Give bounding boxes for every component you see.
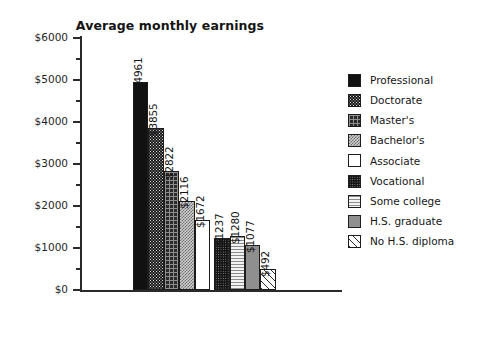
legend-swatch-icon bbox=[348, 195, 361, 208]
legend-swatch-icon bbox=[348, 134, 361, 147]
legend-item-label: Some college bbox=[370, 196, 441, 207]
bar-some-college bbox=[230, 236, 245, 290]
bar-master-s bbox=[164, 171, 179, 290]
legend-item-label: Associate bbox=[370, 156, 420, 167]
legend-swatch-icon bbox=[348, 114, 361, 127]
legend-item-label: Vocational bbox=[370, 176, 424, 187]
bar-doctorate bbox=[148, 128, 163, 290]
legend-swatch-icon bbox=[348, 175, 361, 188]
bar-value-label: $4961 bbox=[132, 57, 144, 89]
bar-value-label: $2116 bbox=[178, 177, 190, 209]
legend-swatch-icon bbox=[348, 74, 361, 87]
bar-value-label: $1077 bbox=[244, 220, 256, 252]
legend-item-no-h-s-diploma[interactable]: No H.S. diploma bbox=[348, 232, 478, 252]
bar-value-label: $3855 bbox=[147, 104, 159, 136]
bar-value-label: $2822 bbox=[163, 147, 175, 179]
legend-item-label: No H.S. diploma bbox=[370, 236, 454, 247]
legend-swatch-icon bbox=[348, 154, 361, 167]
legend-swatch-icon bbox=[348, 215, 361, 228]
bar-bachelor-s bbox=[179, 201, 194, 290]
legend-item-h-s-graduate[interactable]: H.S. graduate bbox=[348, 211, 478, 231]
legend-item-label: Bachelor's bbox=[370, 135, 425, 146]
bar-value-label: $1672 bbox=[194, 195, 206, 227]
bar-associate bbox=[195, 220, 210, 290]
legend-item-label: Doctorate bbox=[370, 95, 422, 106]
bar-value-label: $1237 bbox=[213, 214, 225, 246]
legend-item-some-college[interactable]: Some college bbox=[348, 191, 478, 211]
chart-legend: ProfessionalDoctorateMaster'sBachelor'sA… bbox=[348, 70, 478, 252]
bar-value-label: $1280 bbox=[229, 212, 241, 244]
legend-swatch-icon bbox=[348, 94, 361, 107]
legend-item-vocational[interactable]: Vocational bbox=[348, 171, 478, 191]
legend-item-professional[interactable]: Professional bbox=[348, 70, 478, 90]
legend-item-bachelor-s[interactable]: Bachelor's bbox=[348, 131, 478, 151]
legend-item-label: H.S. graduate bbox=[370, 216, 442, 227]
legend-swatch-icon bbox=[348, 235, 361, 248]
legend-item-master-s[interactable]: Master's bbox=[348, 110, 478, 130]
legend-item-label: Professional bbox=[370, 75, 433, 86]
legend-item-doctorate[interactable]: Doctorate bbox=[348, 90, 478, 110]
chart-canvas: Average monthly earnings $0$1000$2000$30… bbox=[0, 0, 481, 338]
bar-value-label: $492 bbox=[259, 251, 271, 277]
legend-item-associate[interactable]: Associate bbox=[348, 151, 478, 171]
legend-item-label: Master's bbox=[370, 115, 414, 126]
